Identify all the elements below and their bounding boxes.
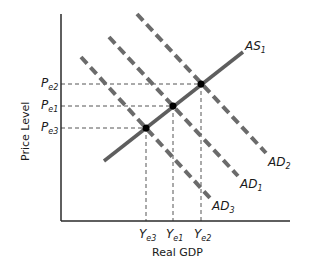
tick-pe1: Pe1 [41,99,58,116]
ad2-label: AD2 [268,156,291,173]
tick-ye3: Ye3 [139,228,156,245]
x-axis-title: Real GDP [152,247,203,258]
tick-ye2: Ye2 [194,228,211,245]
as1-label: AS1 [245,40,266,57]
ad3-label: AD3 [212,200,235,217]
guide-lines [61,84,201,221]
equilibrium-e2 [198,81,205,88]
equilibrium-e3 [143,125,150,132]
equilibrium-e1 [170,103,177,110]
tick-ye1: Ye1 [166,228,183,245]
y-axis-title: Price Level [20,102,31,161]
tick-pe2: Pe2 [41,77,58,94]
tick-pe3: Pe3 [41,121,58,138]
ad1-label: AD1 [240,178,263,195]
